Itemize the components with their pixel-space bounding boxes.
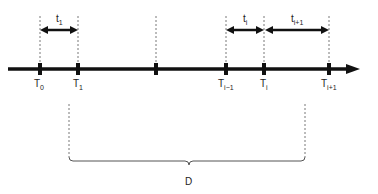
tick-label-Ti+1: Ti+1	[321, 79, 337, 91]
interval-label-ti+1: ti+1	[291, 14, 303, 26]
duration-brace	[69, 157, 305, 165]
interval-label-t1: t1	[56, 14, 63, 26]
tick-label-Ti-1: Ti−1	[218, 79, 234, 91]
timeline-graphics	[0, 0, 378, 194]
timeline-diagram: T0 T1 Ti−1 Ti Ti+1 t1 ti ti+1 D	[0, 0, 378, 194]
tick-label-Ti: Ti	[260, 79, 268, 91]
brace-label-D: D	[185, 177, 192, 187]
interval-label-ti: ti	[243, 14, 247, 26]
dashed-guides	[40, 16, 329, 157]
axis-arrowhead-icon	[346, 64, 360, 74]
tick-label-T0: T0	[34, 79, 44, 91]
tick-label-T1: T1	[73, 79, 83, 91]
